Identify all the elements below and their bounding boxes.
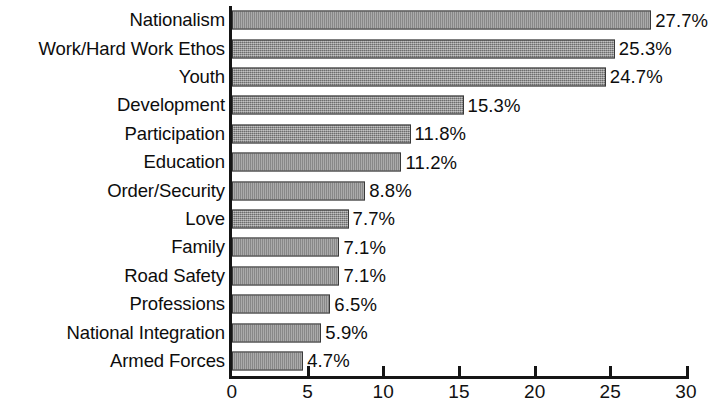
x-tick-label: 0 bbox=[227, 381, 238, 403]
bar-with-value: 25.3% bbox=[232, 39, 672, 58]
bar-row: Order/Security8.8% bbox=[0, 176, 716, 204]
bar-row: Education11.2% bbox=[0, 148, 716, 176]
bar bbox=[232, 67, 606, 86]
category-label: Work/Hard Work Ethos bbox=[39, 38, 225, 60]
x-tick-mark bbox=[307, 366, 310, 376]
bar bbox=[232, 39, 615, 58]
bar-value-label: 8.8% bbox=[369, 180, 412, 202]
bar bbox=[232, 351, 303, 370]
category-label: Love bbox=[185, 208, 225, 230]
bar-value-label: 27.7% bbox=[655, 9, 708, 31]
bar-with-value: 7.1% bbox=[232, 238, 386, 257]
bar-value-label: 5.9% bbox=[325, 322, 368, 344]
bar-row: National Integration5.9% bbox=[0, 318, 716, 346]
bar-chart: Nationalism27.7%Work/Hard Work Ethos25.3… bbox=[0, 0, 716, 407]
bar bbox=[232, 96, 464, 115]
bar-with-value: 7.1% bbox=[232, 266, 386, 285]
bar-with-value: 7.7% bbox=[232, 209, 395, 228]
category-label: Youth bbox=[179, 66, 225, 88]
x-tick-mark bbox=[458, 366, 461, 376]
x-tick-label: 10 bbox=[373, 381, 395, 403]
bar-with-value: 6.5% bbox=[232, 295, 377, 314]
category-label: Professions bbox=[129, 293, 225, 315]
bar bbox=[232, 181, 365, 200]
bar-with-value: 11.8% bbox=[232, 124, 466, 143]
bar-with-value: 15.3% bbox=[232, 96, 521, 115]
bar bbox=[232, 323, 321, 342]
x-axis-line bbox=[229, 376, 689, 379]
bar bbox=[232, 11, 651, 30]
bar-row: Professions6.5% bbox=[0, 290, 716, 318]
bar-value-label: 11.8% bbox=[415, 123, 467, 145]
bar-value-label: 25.3% bbox=[619, 38, 672, 60]
bar bbox=[232, 266, 339, 285]
category-label: Development bbox=[117, 94, 225, 116]
category-label: Armed Forces bbox=[110, 350, 225, 372]
category-label: Education bbox=[144, 151, 225, 173]
category-label: Nationalism bbox=[129, 9, 225, 31]
bar-row: Road Safety7.1% bbox=[0, 262, 716, 290]
bar-row: Participation11.8% bbox=[0, 120, 716, 148]
x-tick-mark bbox=[534, 366, 537, 376]
bar bbox=[232, 124, 411, 143]
bar-value-label: 6.5% bbox=[334, 293, 377, 315]
category-label: Road Safety bbox=[124, 265, 225, 287]
bar-value-label: 7.7% bbox=[353, 208, 396, 230]
bar-row: Family7.1% bbox=[0, 233, 716, 261]
bar-row: Development15.3% bbox=[0, 91, 716, 119]
x-axis-end-cap bbox=[686, 366, 689, 379]
bar-value-label: 7.1% bbox=[343, 265, 386, 287]
bar-with-value: 4.7% bbox=[232, 351, 350, 370]
category-label: Participation bbox=[124, 123, 225, 145]
bar-with-value: 27.7% bbox=[232, 11, 708, 30]
bar bbox=[232, 153, 401, 172]
category-label: Family bbox=[171, 236, 225, 258]
bar-row: Work/Hard Work Ethos25.3% bbox=[0, 34, 716, 62]
x-tick-label: 30 bbox=[675, 381, 697, 403]
bar bbox=[232, 209, 349, 228]
bar-value-label: 15.3% bbox=[468, 94, 521, 116]
bar-value-label: 11.2% bbox=[405, 151, 457, 173]
bar bbox=[232, 295, 330, 314]
bar-value-label: 4.7% bbox=[307, 350, 350, 372]
category-label: National Integration bbox=[67, 322, 225, 344]
x-tick-label: 25 bbox=[600, 381, 622, 403]
x-tick-label: 5 bbox=[302, 381, 313, 403]
bar-with-value: 11.2% bbox=[232, 153, 457, 172]
bar-with-value: 24.7% bbox=[232, 67, 663, 86]
category-label: Order/Security bbox=[107, 180, 225, 202]
bar-value-label: 24.7% bbox=[610, 66, 663, 88]
bar-with-value: 5.9% bbox=[232, 323, 368, 342]
y-axis-line bbox=[229, 6, 232, 379]
bar-row: Youth24.7% bbox=[0, 63, 716, 91]
bar-with-value: 8.8% bbox=[232, 181, 412, 200]
bar-value-label: 7.1% bbox=[343, 236, 386, 258]
x-tick-label: 20 bbox=[524, 381, 546, 403]
x-tick-mark bbox=[609, 366, 612, 376]
bar-row: Love7.7% bbox=[0, 205, 716, 233]
x-tick-label: 15 bbox=[448, 381, 470, 403]
bar bbox=[232, 238, 339, 257]
x-tick-mark bbox=[382, 366, 385, 376]
bar-row: Nationalism27.7% bbox=[0, 6, 716, 34]
